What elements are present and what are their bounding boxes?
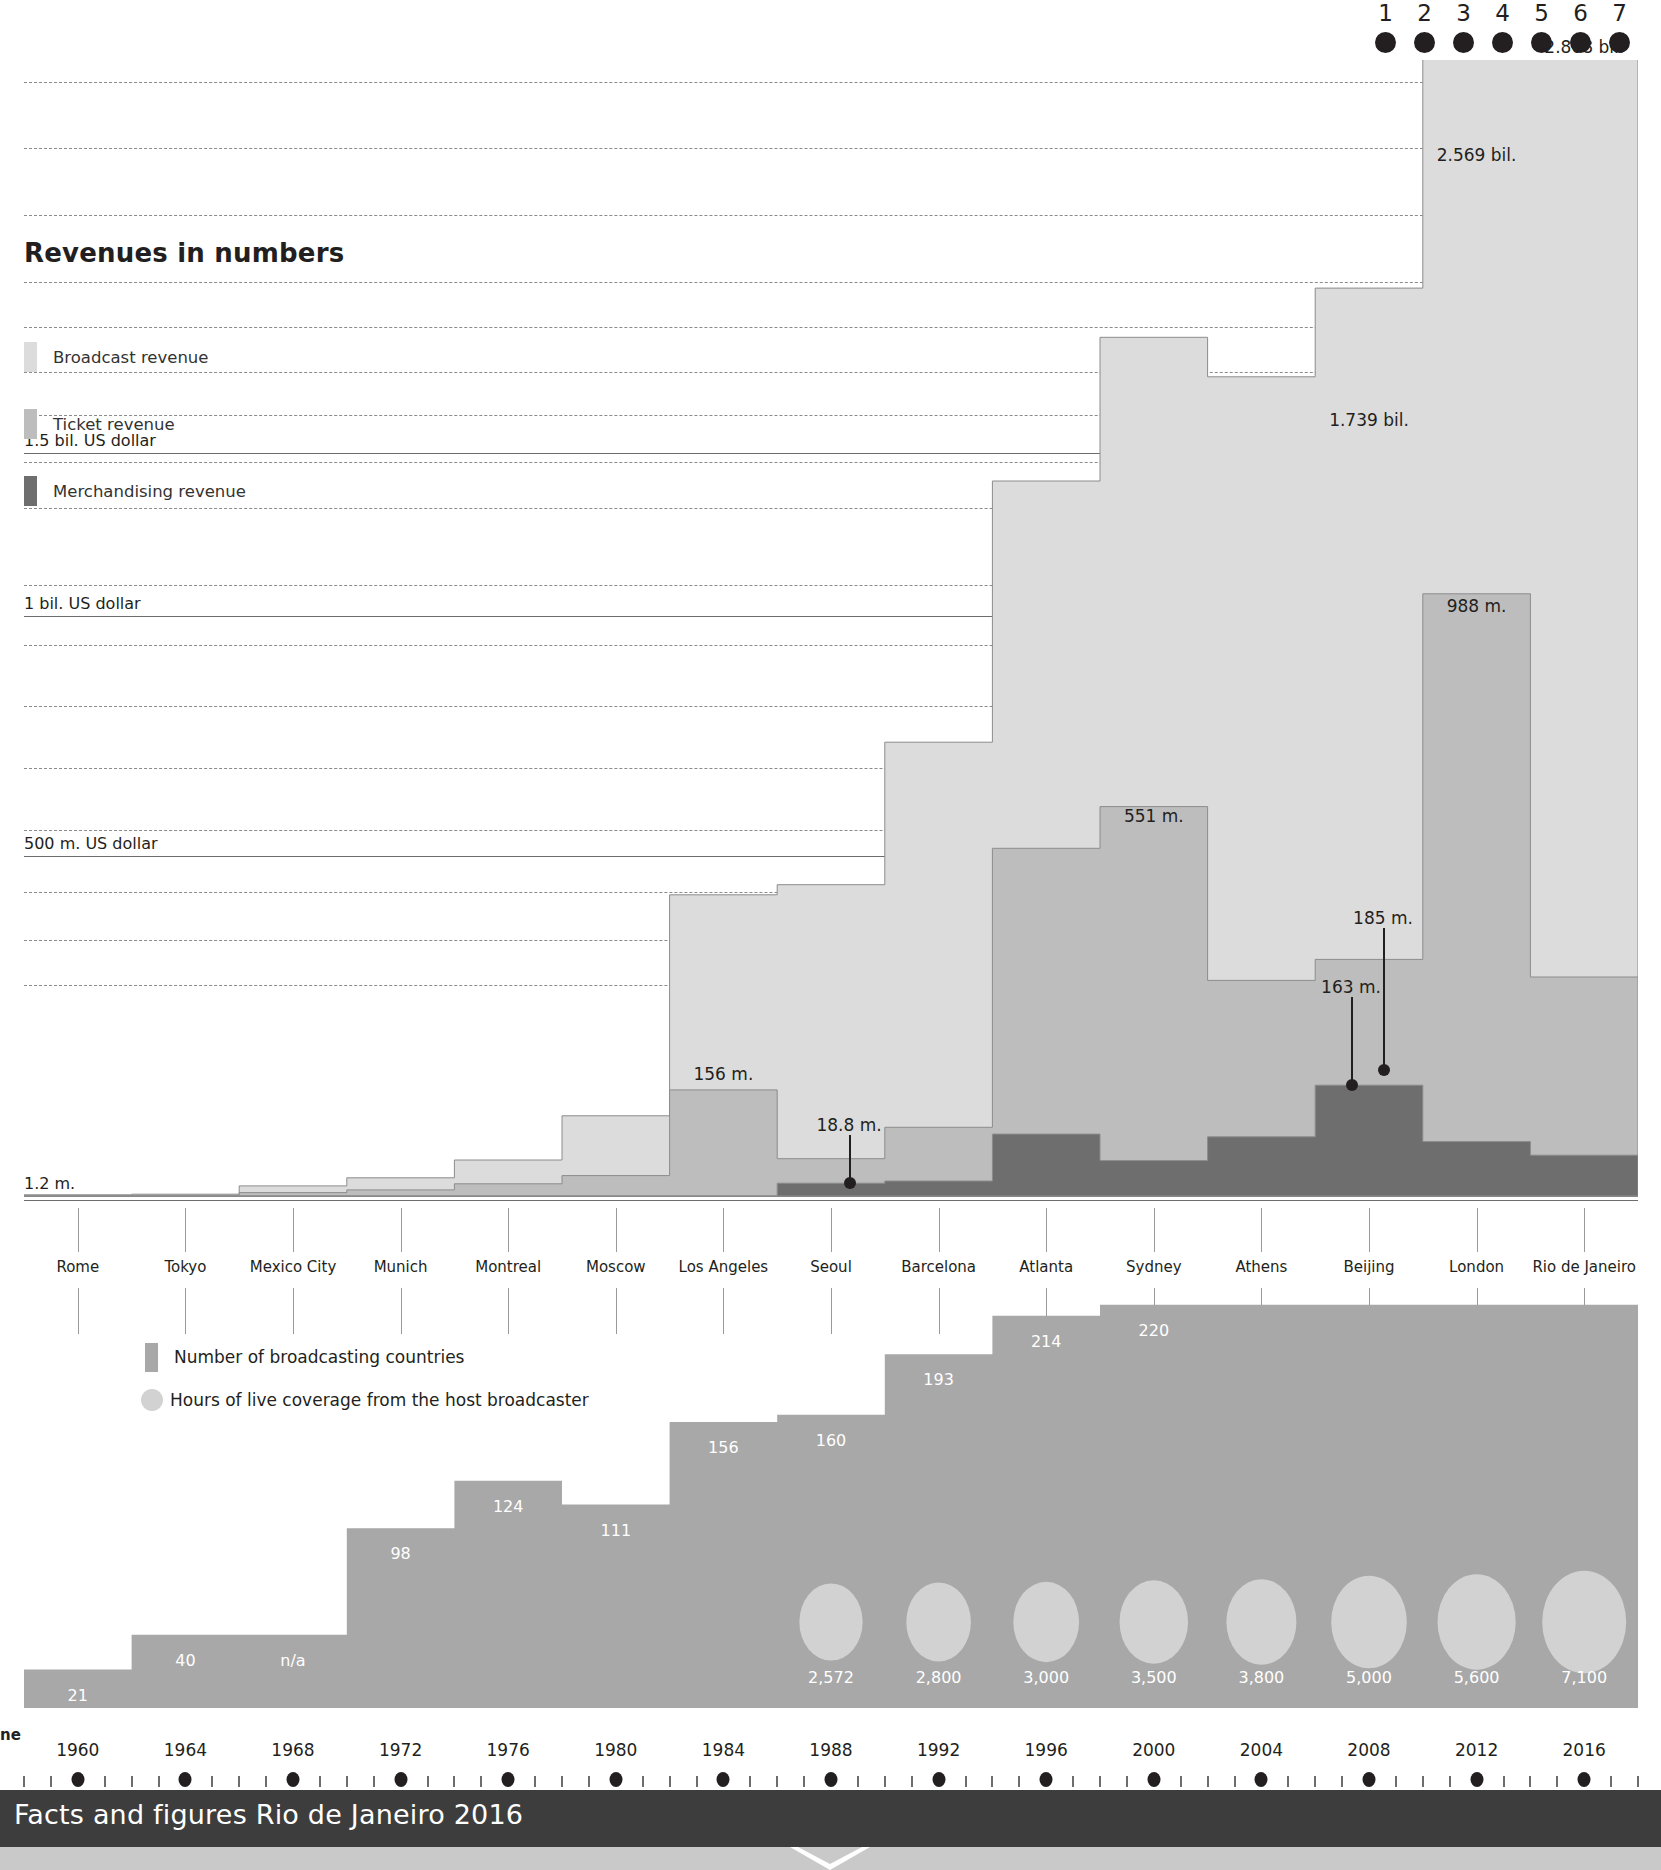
page-dot-icon <box>1492 32 1513 53</box>
year-minor-tick <box>373 1776 375 1787</box>
page-dot-number: 2 <box>1417 0 1432 26</box>
year-minor-tick <box>1018 1776 1020 1787</box>
hours-bubble-rio-de-janeiro <box>1542 1571 1626 1673</box>
legend-item-ticket-revenue: Ticket revenue <box>24 402 246 446</box>
year-dot-1964 <box>179 1772 192 1787</box>
countries-value-tokyo: 40 <box>175 1651 195 1670</box>
city-tick-top <box>1261 1208 1262 1252</box>
hours-value-sydney: 3,500 <box>1131 1668 1177 1687</box>
year-minor-tick <box>803 1776 805 1787</box>
year-minor-tick <box>1341 1776 1343 1787</box>
year-minor-tick <box>319 1776 321 1787</box>
year-label-2008: 2008 <box>1347 1740 1390 1760</box>
city-tick-top <box>78 1208 79 1252</box>
lower-legend: Number of broadcasting countries Hours o… <box>145 1340 589 1426</box>
page-dot-1[interactable]: 1 <box>1366 0 1405 53</box>
year-label-1980: 1980 <box>594 1740 637 1760</box>
legend-swatch-ticket <box>24 409 37 439</box>
year-label-1984: 1984 <box>702 1740 745 1760</box>
hours-value-athens: 3,800 <box>1238 1668 1284 1687</box>
year-minor-tick <box>776 1776 778 1787</box>
city-tick-top <box>508 1208 509 1252</box>
year-dot-2012 <box>1470 1772 1483 1787</box>
legend-item-broadcasting-countries: Number of broadcasting countries <box>145 1340 589 1374</box>
city-tick-top <box>293 1208 294 1252</box>
year-label-2004: 2004 <box>1240 1740 1283 1760</box>
year-label-2016: 2016 <box>1563 1740 1606 1760</box>
countries-value-montreal: 124 <box>493 1497 524 1516</box>
year-minor-tick <box>427 1776 429 1787</box>
year-dot-1996 <box>1040 1772 1053 1787</box>
hours-value-atlanta: 3,000 <box>1023 1668 1069 1687</box>
legend-swatch-merchandising <box>24 476 37 506</box>
countries-value-atlanta: 214 <box>1031 1332 1062 1351</box>
legend-item-live-coverage-hours: Hours of live coverage from the host bro… <box>145 1383 589 1417</box>
value-label-beijing-broadcast: 1.739 bil. <box>1329 410 1409 430</box>
year-minor-tick <box>1207 1776 1209 1787</box>
countries-value-sydney: 220 <box>1139 1321 1170 1340</box>
revenue-legend: Broadcast revenue Ticket revenue Merchan… <box>24 335 246 536</box>
year-minor-tick <box>1072 1776 1074 1787</box>
legend-label-broadcast: Broadcast revenue <box>53 348 208 367</box>
year-minor-tick <box>453 1776 455 1787</box>
year-minor-tick <box>1234 1776 1236 1787</box>
countries-value-mexico-city: n/a <box>280 1651 305 1670</box>
revenue-area-shapes <box>24 60 1638 1208</box>
hours-bubble-atlanta <box>1013 1582 1079 1662</box>
countries-value-munich: 98 <box>390 1544 410 1563</box>
hours-value-beijing: 5,000 <box>1346 1668 1392 1687</box>
hours-bubble-sydney <box>1120 1580 1189 1664</box>
hours-bubble-seoul <box>799 1583 862 1660</box>
legend-swatch-broadcast <box>24 342 37 372</box>
year-minor-tick <box>131 1776 133 1787</box>
year-label-1992: 1992 <box>917 1740 960 1760</box>
city-tick-top <box>723 1208 724 1252</box>
hours-value-seoul: 2,572 <box>808 1668 854 1687</box>
countries-value-moscow: 111 <box>601 1521 632 1540</box>
year-minor-tick <box>1529 1776 1531 1787</box>
legend-label-countries: Number of broadcasting countries <box>174 1347 464 1367</box>
revenue-chart: 1.5 bil. US dollar1 bil. US dollar500 m.… <box>24 60 1638 1208</box>
city-tick-top <box>1154 1208 1155 1252</box>
broadcast-countries-chart: 2140n/a981241111561601932142202,5722,800… <box>24 1248 1638 1708</box>
value-label-london-ticket: 988 m. <box>1447 596 1507 616</box>
leader-label: 185 m. <box>1353 908 1413 928</box>
page-dot-3[interactable]: 3 <box>1444 0 1483 53</box>
year-dot-2016 <box>1578 1772 1591 1787</box>
year-minor-tick <box>1126 1776 1128 1787</box>
year-dot-1980 <box>609 1772 622 1787</box>
page-dot-number: 3 <box>1456 0 1471 26</box>
page-dot-4[interactable]: 4 <box>1483 0 1522 53</box>
broadcast-countries-area <box>24 1248 1638 1708</box>
city-tick-top <box>401 1208 402 1252</box>
hours-value-london: 5,600 <box>1454 1668 1500 1687</box>
year-dot-1972 <box>394 1772 407 1787</box>
city-tick-top <box>185 1208 186 1252</box>
page-dot-number: 6 <box>1573 0 1588 26</box>
year-dot-1976 <box>502 1772 515 1787</box>
year-minor-tick <box>346 1776 348 1787</box>
year-label-2000: 2000 <box>1132 1740 1175 1760</box>
year-minor-tick <box>211 1776 213 1787</box>
leader-line <box>1383 928 1385 1070</box>
year-minor-tick <box>1395 1776 1397 1787</box>
page-dot-2[interactable]: 2 <box>1405 0 1444 53</box>
year-dot-1988 <box>825 1772 838 1787</box>
year-minor-tick <box>642 1776 644 1787</box>
countries-value-rome: 21 <box>68 1686 88 1705</box>
year-minor-tick <box>1287 1776 1289 1787</box>
year-dot-2008 <box>1363 1772 1376 1787</box>
year-minor-tick <box>749 1776 751 1787</box>
year-minor-tick <box>911 1776 913 1787</box>
countries-value-los-angeles: 156 <box>708 1438 739 1457</box>
city-tick-top <box>1046 1208 1047 1252</box>
year-minor-tick <box>23 1776 25 1787</box>
city-tick-top <box>939 1208 940 1252</box>
page-dot-icon <box>1375 32 1396 53</box>
leader-label: 163 m. <box>1321 977 1381 997</box>
legend-swatch-countries <box>145 1343 158 1372</box>
year-minor-tick <box>1180 1776 1182 1787</box>
hours-value-rio-de-janeiro: 7,100 <box>1561 1668 1607 1687</box>
year-minor-tick <box>104 1776 106 1787</box>
year-minor-tick <box>1503 1776 1505 1787</box>
